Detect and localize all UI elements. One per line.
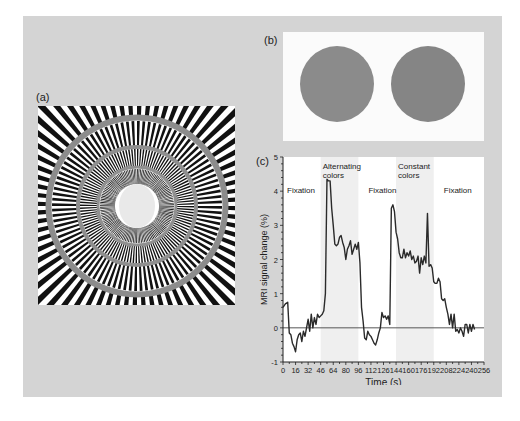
panel-a-label: (a) bbox=[36, 91, 49, 103]
x-tick-label: 80 bbox=[342, 366, 350, 375]
radial-grating-image bbox=[38, 106, 235, 305]
band-label: Fixation bbox=[444, 186, 472, 195]
x-tick-label: 16 bbox=[291, 366, 299, 375]
y-tick-label: -1 bbox=[271, 358, 278, 367]
y-tick-label: 0 bbox=[274, 324, 278, 333]
x-tick-label: 46 bbox=[317, 366, 325, 375]
band-label: Fixation bbox=[368, 186, 396, 195]
x-tick-label: 224 bbox=[453, 366, 466, 375]
x-tick-label: 208 bbox=[440, 366, 453, 375]
x-tick-label: 192 bbox=[427, 366, 440, 375]
x-tick-label: 112 bbox=[365, 366, 377, 375]
band-label: Fixation bbox=[287, 186, 315, 195]
x-tick-label: 96 bbox=[354, 366, 362, 375]
x-axis-label: Time (s) bbox=[365, 377, 401, 385]
mri-signal-chart: FixationAlternatingcolorsFixationConstan… bbox=[255, 150, 495, 385]
x-tick-label: 32 bbox=[304, 366, 312, 375]
right-color-circle bbox=[391, 46, 465, 122]
band-label: Alternating bbox=[323, 162, 361, 171]
x-tick-label: 256 bbox=[478, 366, 491, 375]
x-tick-label: 144 bbox=[390, 366, 403, 375]
y-tick-label: 5 bbox=[274, 153, 278, 162]
y-tick-label: 3 bbox=[274, 221, 278, 230]
band-label: colors bbox=[323, 171, 344, 180]
x-tick-label: 64 bbox=[329, 366, 337, 375]
left-color-circle bbox=[300, 46, 374, 122]
color-circles-panel bbox=[283, 32, 484, 141]
x-tick-label: 160 bbox=[402, 366, 415, 375]
band-label: colors bbox=[398, 171, 419, 180]
shaded-band bbox=[396, 157, 434, 362]
x-tick-label: 176 bbox=[415, 366, 428, 375]
radial-grating-stimulus bbox=[38, 106, 235, 305]
y-axis-label: MRI signal change (%) bbox=[259, 214, 269, 305]
panel-b-label: (b) bbox=[264, 34, 277, 46]
x-tick-label: 240 bbox=[465, 366, 478, 375]
y-tick-label: 1 bbox=[274, 290, 278, 299]
y-tick-label: 4 bbox=[274, 187, 278, 196]
band-label: Constant bbox=[398, 162, 431, 171]
x-tick-label: 0 bbox=[281, 366, 285, 375]
x-tick-label: 126 bbox=[377, 366, 390, 375]
y-tick-label: 2 bbox=[274, 256, 278, 265]
